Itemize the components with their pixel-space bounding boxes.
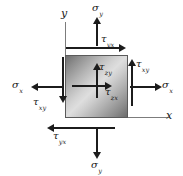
stress-element-figure: y x σy τyx σx τxy σx τxy τzy τzx bbox=[0, 0, 183, 176]
sigma-x-left-arrowhead bbox=[31, 83, 38, 91]
sigma-x-right-arrowhead bbox=[155, 83, 162, 91]
sigma-y-bottom-shaft bbox=[96, 127, 98, 153]
tau-xy-left-label: τxy bbox=[33, 97, 46, 110]
sigma-subscript: y bbox=[98, 167, 102, 175]
tau-subscript: xy bbox=[39, 104, 46, 112]
tau-xy-left-shaft bbox=[62, 57, 64, 97]
tau-subscript: yx bbox=[59, 138, 66, 146]
tau-symbol: τ bbox=[99, 61, 105, 72]
tau-symbol: τ bbox=[33, 96, 39, 107]
tau-yx-top-label: τyx bbox=[101, 34, 114, 47]
tau-zx-center-shaft bbox=[72, 85, 106, 87]
tau-zy-center-shaft bbox=[96, 68, 98, 98]
tau-subscript: zy bbox=[105, 69, 112, 77]
tau-zx-center-label: τzx bbox=[105, 87, 118, 100]
sigma-x-left-shaft bbox=[37, 86, 63, 88]
tau-symbol: τ bbox=[101, 33, 107, 44]
tau-subscript: yx bbox=[107, 41, 114, 49]
sigma-symbol: σ bbox=[12, 79, 19, 90]
y-axis-line bbox=[65, 22, 66, 58]
sigma-x-left-label: σx bbox=[12, 80, 23, 93]
sigma-y-bottom-arrowhead bbox=[93, 152, 101, 159]
sigma-subscript: x bbox=[169, 87, 173, 95]
tau-subscript: xy bbox=[142, 66, 149, 74]
x-axis-line bbox=[128, 117, 170, 118]
tau-yx-top-arrowhead bbox=[119, 44, 126, 52]
tau-xy-left-arrowhead bbox=[59, 96, 67, 103]
sigma-y-top-shaft bbox=[96, 22, 98, 46]
tau-xy-right-arrowhead bbox=[128, 59, 136, 66]
tau-symbol: τ bbox=[136, 58, 142, 69]
sigma-subscript: x bbox=[19, 87, 23, 95]
tau-yx-bottom-label: τyx bbox=[53, 131, 66, 144]
sigma-y-bottom-label: σy bbox=[91, 160, 102, 173]
sigma-symbol: σ bbox=[92, 2, 99, 13]
tau-xy-right-shaft bbox=[131, 64, 133, 106]
x-axis-label: x bbox=[166, 110, 172, 121]
tau-symbol: τ bbox=[105, 86, 111, 97]
tau-symbol: τ bbox=[53, 130, 59, 141]
sigma-y-top-label: σy bbox=[92, 3, 103, 16]
sigma-subscript: y bbox=[99, 10, 103, 18]
y-axis-label: y bbox=[61, 8, 67, 19]
sigma-symbol: σ bbox=[91, 159, 98, 170]
tau-zy-center-label: τzy bbox=[99, 62, 112, 75]
sigma-y-top-arrowhead bbox=[93, 17, 101, 24]
tau-xy-right-label: τxy bbox=[136, 59, 149, 72]
tau-yx-bottom-shaft bbox=[53, 127, 115, 129]
sigma-symbol: σ bbox=[162, 79, 169, 90]
tau-subscript: zx bbox=[111, 94, 118, 102]
sigma-x-right-shaft bbox=[130, 86, 156, 88]
sigma-x-right-label: σx bbox=[162, 80, 173, 93]
